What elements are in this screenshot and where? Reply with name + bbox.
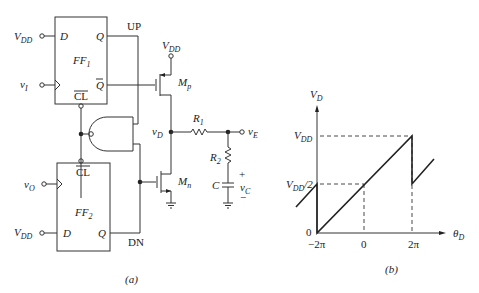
caption-a: (a): [125, 273, 138, 286]
ff1-pin-d: D: [59, 30, 68, 42]
caption-b: (b): [385, 263, 398, 276]
terminal-icon: [169, 54, 173, 58]
ff1-pin-q: Q: [96, 30, 104, 42]
ff2-pin-d: D: [62, 227, 71, 239]
y-tick-zero: 0: [306, 226, 312, 238]
clock-triangle-icon: [57, 179, 62, 189]
x-tick-neg-2pi: −2π: [308, 238, 326, 250]
terminal-icon: [40, 231, 44, 235]
figure: VDD D Q FF1 vI Q CL UP: [0, 0, 479, 293]
mp-label: Mp: [177, 76, 191, 91]
mn-label: Mn: [177, 175, 191, 190]
arrow-icon: [160, 73, 165, 77]
vc-minus: −: [240, 191, 246, 203]
arrow-up-icon: [315, 105, 319, 112]
ff2-clk-input-label: vO: [24, 178, 35, 193]
nand-gate: [81, 117, 140, 151]
terminal-icon: [42, 182, 46, 186]
nmos-mn: Mn: [157, 132, 191, 208]
resistor-r1: [191, 129, 207, 135]
y-axis-label: VD: [310, 88, 323, 103]
output-ve-label: vE: [248, 125, 258, 140]
node-vd-label: vD: [152, 125, 163, 140]
x-tick-zero: 0: [361, 238, 367, 250]
ff1-clk-input-label: vI: [20, 78, 28, 93]
vc-plus: +: [239, 168, 245, 180]
chart-b: VD θD VDD VDD/2 0 −2π 0 2π (b): [286, 88, 464, 276]
resistor-r2: [225, 147, 231, 163]
y-tick-vdd: VDD: [294, 129, 313, 144]
net-up-label: UP: [127, 20, 141, 32]
terminal-icon: [40, 83, 44, 87]
cap-label: C: [212, 179, 220, 191]
x-tick-2pi: 2π: [408, 238, 420, 250]
y-tick-vdd-half: VDD/2: [286, 178, 313, 193]
ff2-pin-cl: CL: [76, 166, 90, 178]
net-dn-label: DN: [128, 236, 144, 248]
r1-label: R1: [192, 112, 204, 127]
clock-triangle-icon: [55, 80, 60, 90]
ff2-label: FF2: [74, 206, 92, 221]
ff1-label: FF1: [72, 54, 90, 69]
arrow-icon: [166, 189, 171, 193]
terminal-icon: [40, 34, 44, 38]
ff1-d-input-label: VDD: [14, 30, 33, 45]
ff2-d-input-label: VDD: [14, 226, 33, 241]
supply-vdd-label: VDD: [162, 39, 181, 54]
pmos-mp: VDD Mp: [156, 39, 191, 130]
x-axis-label: θD: [453, 227, 464, 242]
terminal-icon: [240, 130, 244, 134]
arrow-right-icon: [439, 231, 446, 235]
ff1-pin-qbar: Q: [96, 79, 104, 91]
ff1-pin-cl: CL: [74, 90, 88, 102]
circuit-a: VDD D Q FF1 vI Q CL UP: [14, 17, 258, 286]
ff2-pin-q: Q: [98, 227, 106, 239]
r2-label: R2: [209, 151, 221, 166]
